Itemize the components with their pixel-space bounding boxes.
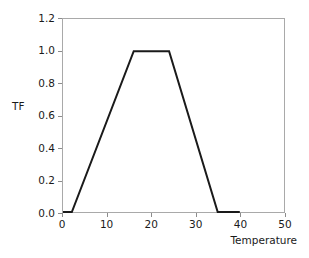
x-tick-label: 40	[220, 219, 260, 230]
y-tick-label: 0.0	[38, 208, 55, 219]
y-tick-label: 1.0	[38, 45, 55, 56]
chart-figure: 0.00.20.40.60.81.01.201020304050 TF Temp…	[0, 0, 309, 258]
y-tick-label: 0.8	[38, 78, 55, 89]
x-tick-mark	[196, 213, 197, 217]
x-tick-label: 20	[131, 219, 171, 230]
y-tick-mark	[58, 18, 62, 19]
y-tick-mark	[58, 148, 62, 149]
x-tick-mark	[285, 213, 286, 217]
plot-area	[62, 18, 285, 213]
x-tick-label: 30	[176, 219, 216, 230]
x-tick-mark	[151, 213, 152, 217]
x-tick-label: 50	[265, 219, 305, 230]
y-tick-mark	[58, 116, 62, 117]
y-tick-label: 0.6	[38, 110, 55, 121]
x-tick-label: 0	[42, 219, 82, 230]
series-line-tf	[63, 51, 240, 212]
trapezoidal-membership-line	[63, 19, 284, 212]
x-tick-mark	[107, 213, 108, 217]
y-tick-mark	[58, 51, 62, 52]
x-axis-title: Temperature	[230, 234, 297, 246]
y-axis-title: TF	[12, 101, 24, 112]
y-tick-label: 1.2	[38, 13, 55, 24]
y-tick-label: 0.2	[38, 175, 55, 186]
x-tick-mark	[240, 213, 241, 217]
y-tick-mark	[58, 181, 62, 182]
y-tick-label: 0.4	[38, 143, 55, 154]
y-tick-mark	[58, 83, 62, 84]
x-tick-mark	[62, 213, 63, 217]
x-tick-label: 10	[87, 219, 127, 230]
